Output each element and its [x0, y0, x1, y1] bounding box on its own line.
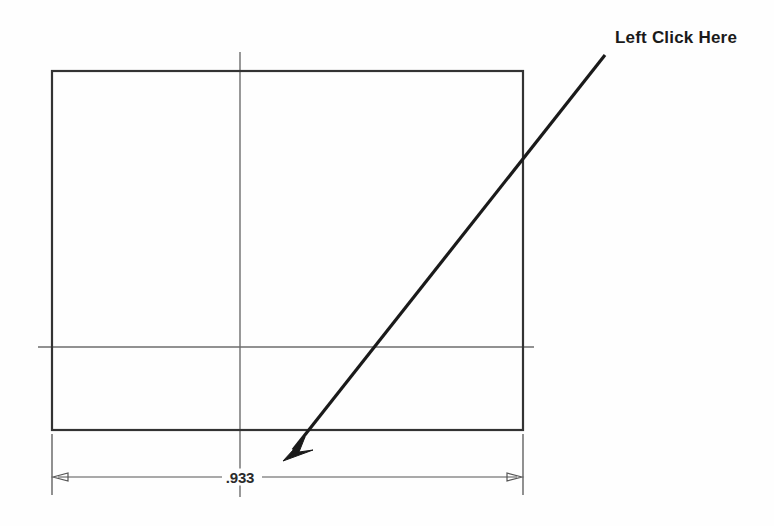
callout-instruction-label: Left Click Here [615, 28, 737, 48]
callout-leader-line [293, 55, 605, 450]
drawing-svg [0, 0, 774, 526]
technical-drawing-canvas: .933 Left Click Here [0, 0, 774, 526]
dimension-value-label: .933 [223, 469, 257, 486]
callout-arrowhead-icon [283, 437, 313, 461]
